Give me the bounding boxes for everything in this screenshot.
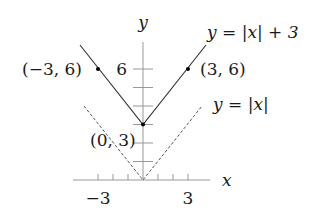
point-0-3 bbox=[141, 123, 145, 127]
point-3-6 bbox=[186, 67, 190, 71]
x-axis-label: x bbox=[222, 170, 232, 190]
curve-label-shifted: y = |x| + 3 bbox=[206, 22, 299, 42]
point-label-neg3-6: (−3, 6) bbox=[22, 59, 82, 79]
point-label-0-3: (0, 3) bbox=[90, 130, 136, 150]
y-axis-label: y bbox=[137, 12, 148, 32]
x-tick-label-3: 3 bbox=[183, 188, 194, 208]
abs-value-graph: y x 6 −3 3 (−3, 6) (3, 6) (0, 3) y = |x|… bbox=[0, 0, 313, 211]
point-label-3-6: (3, 6) bbox=[200, 59, 246, 79]
curve-label-base: y = |x| bbox=[212, 94, 269, 114]
graph-canvas: y x 6 −3 3 (−3, 6) (3, 6) (0, 3) y = |x|… bbox=[0, 0, 313, 211]
y-tick-label-6: 6 bbox=[116, 59, 127, 79]
point-neg3-6 bbox=[96, 67, 100, 71]
x-tick-label-neg3: −3 bbox=[85, 188, 110, 208]
